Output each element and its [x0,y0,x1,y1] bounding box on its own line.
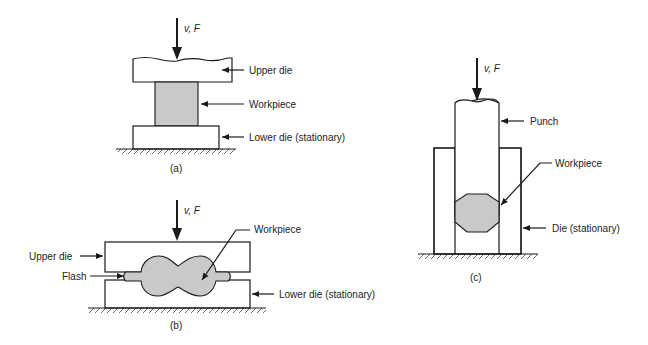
workpiece [455,194,499,232]
upper-die [133,58,232,83]
force-label: v, F [184,23,201,34]
workpiece [155,82,198,126]
force-label: v, F [184,205,201,216]
label-die: Die (stationary) [552,223,620,234]
label-upper-die: Upper die [29,251,73,262]
panel-a: v, F Upper die Workpiece Lower die (stat… [116,18,345,174]
force-label: v, F [484,63,501,74]
panel-b: v, F Upper die Flash Workpiece Lower die… [29,200,375,331]
label-workpiece: Workpiece [249,99,296,110]
caption-b: (b) [170,320,182,331]
label-flash: Flash [62,271,86,282]
forging-diagram: v, F Upper die Workpiece Lower die (stat… [0,0,648,345]
lower-die [133,126,219,149]
label-punch: Punch [530,116,558,127]
caption-c: (c) [470,272,482,283]
label-lower-die: Lower die (stationary) [279,289,375,300]
force-arrow-icon [172,228,182,241]
caption-a: (a) [170,163,182,174]
panel-c: v, F Punch Workpiece Die (stationary) (c… [418,58,620,283]
label-workpiece: Workpiece [555,158,602,169]
label-lower-die: Lower die (stationary) [249,132,345,143]
label-upper-die: Upper die [249,65,293,76]
label-workpiece: Workpiece [254,224,301,235]
